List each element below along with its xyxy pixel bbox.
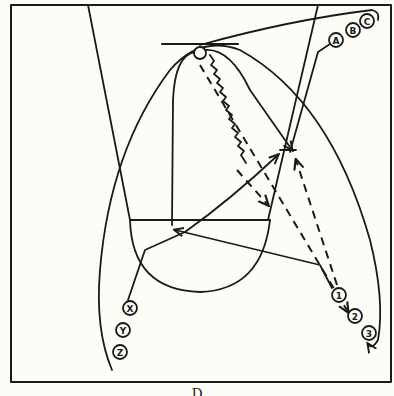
diagram-caption: D <box>0 384 394 396</box>
lane-line-left <box>88 5 130 220</box>
cut-1 <box>175 230 332 288</box>
dribble-path <box>210 55 246 163</box>
pass-1-to-elbow <box>296 160 337 285</box>
free-throw-circle <box>130 220 270 292</box>
svg-text:3: 3 <box>366 329 372 339</box>
cut-z-to-3 <box>99 46 380 371</box>
player-a: A <box>329 33 343 47</box>
court-frame <box>11 5 391 382</box>
svg-text:2: 2 <box>352 312 358 322</box>
cut-basket-to-elbow <box>205 50 292 150</box>
svg-text:Y: Y <box>119 326 127 336</box>
cut-x <box>128 155 278 300</box>
svg-text:C: C <box>364 17 371 27</box>
player-z: Z <box>113 345 127 359</box>
cut-left-post <box>172 52 195 225</box>
svg-text:X: X <box>127 304 134 314</box>
player-c: C <box>360 14 374 28</box>
player-y: Y <box>116 323 130 337</box>
player-b: B <box>346 23 360 37</box>
player-1: 1 <box>332 288 346 302</box>
svg-text:Z: Z <box>117 348 124 358</box>
player-x: X <box>123 301 137 315</box>
pass-basket-to-2 <box>200 65 348 312</box>
svg-text:A: A <box>333 36 340 46</box>
svg-text:B: B <box>350 26 357 36</box>
svg-text:1: 1 <box>336 291 342 301</box>
player-2: 2 <box>348 309 362 323</box>
player-3: 3 <box>362 326 376 340</box>
basket-icon <box>194 47 206 59</box>
